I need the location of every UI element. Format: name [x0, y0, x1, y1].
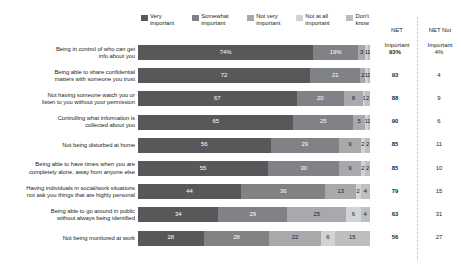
bar-segment-somewhat-important: 29: [218, 207, 287, 222]
net-not-important-value: 4: [417, 73, 461, 79]
legend-label-line1: Very: [150, 13, 174, 20]
bar-segment-not-very-important: 9: [339, 161, 360, 176]
bar-segment-value: 4: [364, 212, 367, 218]
bar-segment-very-important: 34: [138, 207, 218, 222]
bar-segment-very-important: 72: [138, 68, 310, 83]
chart-row: Being able to share confidential matters…: [0, 64, 461, 87]
bar-segment-value: 55: [200, 166, 207, 172]
bar-segment-value: 34: [175, 212, 182, 218]
bar-segment-value: 4: [364, 189, 367, 195]
net-important-value: 93%: [373, 50, 417, 56]
net-important-header-line1: NET: [377, 27, 417, 34]
net-not-important-value: 15: [417, 189, 461, 195]
bar-segment-value: 19%: [330, 50, 342, 56]
stacked-bar-chart: VeryimportantSomewhatimportantNot veryim…: [0, 0, 461, 265]
bar-segment-value: 25: [313, 212, 320, 218]
row-category-label: Being able to go around in public withou…: [0, 208, 138, 222]
row-category-label: Being able to have times when you are co…: [0, 161, 138, 175]
bar-segment-value: 6: [352, 212, 355, 218]
net-not-important-value: 27: [417, 235, 461, 241]
stacked-bar: 34292564: [138, 207, 370, 222]
bar-segment-very-important: 28: [138, 231, 204, 246]
legend-item-not-very-important[interactable]: Not veryimportant: [247, 13, 296, 27]
bar-segment-value: 1: [367, 119, 370, 125]
bar-segment-value: 72: [221, 73, 228, 79]
chart-row: Being able to have times when you are co…: [0, 157, 461, 180]
bar-segment-value: 25: [320, 119, 327, 125]
net-not-important-value: 4%: [417, 50, 461, 56]
bar-segment-somewhat-important: 20: [297, 91, 344, 106]
bar-segment-not-very-important: 25: [287, 207, 346, 222]
net-not-important-value: 9: [417, 96, 461, 102]
net-important-value: 63: [373, 212, 417, 218]
legend-label-line2: know: [355, 20, 369, 27]
bar-segment-value: 3: [360, 50, 363, 56]
legend-item-somewhat-important[interactable]: Somewhatimportant: [192, 13, 247, 27]
bar-segment-dont-know: 1: [368, 68, 370, 83]
row-category-label: Not being disturbed at home: [0, 142, 138, 149]
bar-segment-dont-know: 1: [368, 45, 370, 60]
bar-segment-value: 8: [352, 96, 355, 102]
bar-segment-value: 65: [212, 119, 219, 125]
bar-segment-dont-know: 4: [361, 207, 370, 222]
bar-segment-value: 74%: [220, 50, 232, 56]
bar-segment-dont-know: 1: [368, 115, 370, 130]
legend-label-very-important: Veryimportant: [150, 13, 174, 27]
legend-swatch-somewhat-important: [192, 15, 199, 22]
bar-segment-somewhat-important: 19%: [313, 45, 358, 60]
bar-segment-value: 13: [337, 189, 344, 195]
bar-segment-value: 29: [250, 212, 257, 218]
bar-segment-very-important: 55: [138, 161, 268, 176]
bar-segment-value: 5: [358, 119, 361, 125]
net-important-value: 85: [373, 142, 417, 148]
net-not-important-value: 31: [417, 212, 461, 218]
chart-row: Not being disturbed at home56299228511: [0, 134, 461, 157]
bar-segment-value: 56: [201, 142, 208, 148]
legend-swatch-very-important: [141, 15, 148, 22]
legend-label-line1: Don't: [355, 13, 369, 20]
chart-row: Being able to go around in public withou…: [0, 203, 461, 226]
bar-segment-dont-know: 2: [365, 161, 370, 176]
stacked-bar: 5629922: [138, 138, 370, 153]
net-important-value: 88: [373, 96, 417, 102]
legend-label-line1: Not very: [256, 13, 280, 20]
chart-row: Controlling what information is collecte…: [0, 111, 461, 134]
bar-segment-somewhat-important: 28: [204, 231, 270, 246]
bar-segment-value: 1: [367, 50, 370, 56]
net-important-value: 85: [373, 166, 417, 172]
bar-segment-not-very-important: 8: [344, 91, 363, 106]
bar-segment-value: 2: [357, 189, 360, 195]
bar-segment-very-important: 44: [138, 184, 241, 199]
stacked-bar: 74%19%311: [138, 45, 370, 60]
net-not-important-value: 10: [417, 166, 461, 172]
legend-label-line1: Not at all: [305, 13, 329, 20]
legend-swatch-not-at-all-important: [296, 15, 303, 22]
row-category-label: Controlling what information is collecte…: [0, 115, 138, 129]
bar-segment-value: 22: [292, 235, 299, 241]
bar-segment-value: 2: [366, 166, 369, 172]
bar-segment-not-very-important: 5: [353, 115, 365, 130]
bar-segment-somewhat-important: 25: [293, 115, 353, 130]
legend-item-very-important[interactable]: Veryimportant: [141, 13, 192, 27]
net-important-value: 79: [373, 189, 417, 195]
legend-label-line2: important: [201, 20, 228, 27]
legend-item-not-at-all-important[interactable]: Not at allimportant: [296, 13, 346, 27]
legend-item-dont-know[interactable]: Don'tknow: [346, 13, 376, 27]
bar-segment-value: 36: [280, 189, 287, 195]
row-category-label: Having individuals in social/work situat…: [0, 185, 138, 199]
bar-segment-dont-know: 4: [361, 184, 370, 199]
bar-segment-very-important: 65: [138, 115, 293, 130]
bar-segment-dont-know: 15: [335, 231, 370, 246]
chart-row: Having individuals in social/work situat…: [0, 180, 461, 203]
bar-segment-value: 15: [349, 235, 356, 241]
legend-label-line2: important: [150, 20, 174, 27]
bar-segment-not-very-important: 22: [269, 231, 321, 246]
row-category-label: Not being monitored at work: [0, 235, 138, 242]
bar-segment-value: 9: [348, 166, 351, 172]
legend-swatch-dont-know: [346, 15, 353, 22]
stacked-bar: 7221211: [138, 68, 370, 83]
bar-segment-somewhat-important: 29: [271, 138, 340, 153]
legend-label-line1: Somewhat: [201, 13, 228, 20]
stacked-bar: 282822615: [138, 231, 370, 246]
row-category-label: Not having someone watch you or listen t…: [0, 92, 138, 106]
